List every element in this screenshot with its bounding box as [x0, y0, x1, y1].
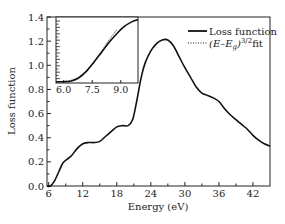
x-tick-label: 30 — [179, 188, 192, 199]
y-tick-label: 0.6 — [28, 108, 44, 119]
x-tick-label: 24 — [144, 188, 157, 199]
y-tick-label: 1.4 — [28, 12, 44, 23]
y-tick-label: 1.0 — [28, 60, 44, 71]
x-tick-label: 42 — [247, 188, 260, 199]
y-tick-label: 0.2 — [28, 156, 44, 167]
loss-function-chart: 61218243036420.00.20.40.60.81.01.21.4 6.… — [0, 0, 285, 224]
y-tick-label: 0.8 — [28, 84, 44, 95]
inset-plot: 6.07.59.0 — [56, 17, 138, 95]
x-tick-label: 6 — [46, 188, 52, 199]
inset-x-tick-label: 7.5 — [85, 84, 100, 95]
y-tick-label: 0.0 — [28, 181, 44, 192]
legend-solid-label: Loss function — [209, 26, 278, 37]
y-tick-label: 1.2 — [28, 36, 44, 47]
x-tick-label: 12 — [76, 188, 89, 199]
x-tick-label: 18 — [110, 188, 123, 199]
legend: Loss function (E–Eg)3/2fit — [188, 26, 278, 51]
y-axis-label: Loss function — [6, 66, 17, 135]
x-tick-label: 36 — [213, 188, 226, 199]
x-axis-label: Energy (eV) — [128, 201, 189, 212]
inset-frame — [56, 17, 138, 83]
inset-x-tick-label: 9.0 — [113, 84, 128, 95]
legend-dotted-label: (E–Eg)3/2fit — [209, 37, 263, 51]
y-tick-label: 0.4 — [28, 132, 44, 143]
inset-x-tick-label: 6.0 — [56, 84, 71, 95]
